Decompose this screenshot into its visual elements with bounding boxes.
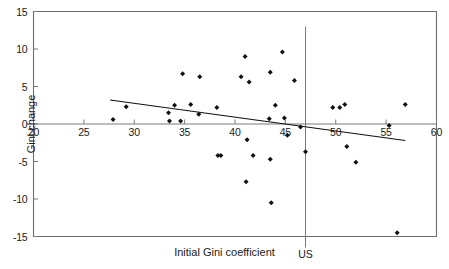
data-point — [188, 102, 193, 107]
x-tick-label: 50 — [330, 126, 341, 138]
data-point — [292, 78, 297, 83]
data-point — [180, 71, 185, 76]
data-point — [342, 102, 347, 107]
y-tick-label: -15 — [0, 231, 28, 243]
data-point — [344, 144, 349, 149]
x-tick-label: 45 — [280, 126, 291, 138]
data-point — [124, 104, 129, 109]
data-point — [269, 200, 274, 205]
y-tick-label: -10 — [0, 193, 28, 205]
y-tick-label: 0 — [0, 118, 28, 130]
data-point — [298, 125, 303, 130]
data-point — [214, 105, 219, 110]
data-point — [353, 160, 358, 165]
x-tick-label: 40 — [229, 126, 240, 138]
data-point — [172, 103, 177, 108]
trend-line — [110, 100, 405, 141]
x-tick-label: 60 — [431, 126, 442, 138]
data-point — [166, 110, 171, 115]
y-axis-title: Gini change — [25, 69, 37, 179]
x-axis-title: Initial Gini coefficient — [0, 246, 449, 258]
data-point — [245, 137, 250, 142]
data-point — [395, 230, 400, 235]
data-point — [280, 50, 285, 55]
data-point — [197, 74, 202, 79]
data-point — [178, 119, 183, 124]
data-point — [247, 80, 252, 85]
data-point — [244, 179, 249, 184]
data-point — [268, 157, 273, 162]
data-point — [282, 116, 287, 121]
x-tick-label: 35 — [179, 126, 190, 138]
x-tick-label: 55 — [380, 126, 391, 138]
data-point — [273, 103, 278, 108]
data-point — [267, 116, 272, 121]
x-tick-label: 25 — [78, 126, 89, 138]
data-point — [251, 153, 256, 158]
data-points — [111, 50, 408, 236]
y-tick-label: 15 — [0, 6, 28, 18]
data-point — [218, 153, 223, 158]
data-point — [330, 105, 335, 110]
data-point — [111, 117, 116, 122]
y-tick-label: -5 — [0, 156, 28, 168]
x-tick-label: 30 — [129, 126, 140, 138]
scatter-plot-figure: 202530354045505560151050-5-10-15 Gini ch… — [0, 0, 449, 269]
data-point — [239, 74, 244, 79]
data-point — [337, 105, 342, 110]
data-point — [268, 70, 273, 75]
us-marker-label: US — [298, 248, 313, 260]
data-point — [243, 54, 248, 59]
data-point — [303, 149, 308, 154]
data-point — [403, 102, 408, 107]
y-tick-label: 5 — [0, 81, 28, 93]
y-tick-label: 10 — [0, 43, 28, 55]
data-point — [167, 119, 172, 124]
